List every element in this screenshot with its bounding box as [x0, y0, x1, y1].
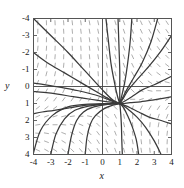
y-tick-label: 0: [16, 82, 30, 91]
y-axis-title: y: [5, 81, 9, 91]
x-tick-label: 4: [165, 158, 179, 167]
x-tick-label: 2: [130, 158, 144, 167]
figure-container: -4-3-2-10123443210-1-2-3-4xy: [0, 0, 184, 188]
x-tick-label: -1: [78, 158, 92, 167]
y-tick-label: -2: [16, 48, 30, 57]
y-tick-label: 1: [16, 99, 30, 108]
slope-mark: [107, 80, 108, 85]
slope-mark: [150, 148, 151, 153]
y-tick-label: 3: [16, 133, 30, 142]
y-tick-label: -1: [16, 65, 30, 74]
x-tick-label: 3: [147, 158, 161, 167]
slope-mark: [63, 63, 64, 68]
x-tick-label: -2: [61, 158, 75, 167]
slope-mark: [61, 124, 66, 125]
y-tick-label: -3: [16, 31, 30, 40]
x-tick-label: 0: [96, 158, 110, 167]
x-tick-label: 1: [113, 158, 127, 167]
y-tick-label: -4: [16, 14, 30, 23]
slope-mark: [38, 46, 39, 51]
slope-mark: [89, 54, 90, 59]
y-tick-label: 4: [16, 150, 30, 159]
y-tick-label: 2: [16, 116, 30, 125]
x-tick-label: -3: [44, 158, 58, 167]
x-axis-title: x: [100, 171, 104, 181]
slope-mark: [81, 37, 82, 42]
